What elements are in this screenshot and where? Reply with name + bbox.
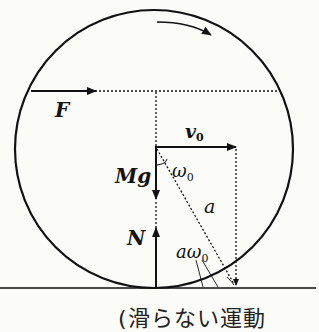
caption: (滑らない運動 <box>118 300 266 332</box>
weight-label: Mg <box>114 164 151 188</box>
normal-label: N <box>126 226 146 250</box>
radius-dotted-line <box>157 149 234 284</box>
radius-label: a <box>204 195 215 217</box>
rotation-arrow-icon <box>157 22 211 35</box>
velocity-label: v0 <box>185 120 204 144</box>
angular-velocity-label: ω0 <box>172 160 194 184</box>
tangential-speed-label: aω0 <box>176 241 208 265</box>
disk-circle <box>15 10 293 288</box>
force-label: F <box>54 98 71 122</box>
